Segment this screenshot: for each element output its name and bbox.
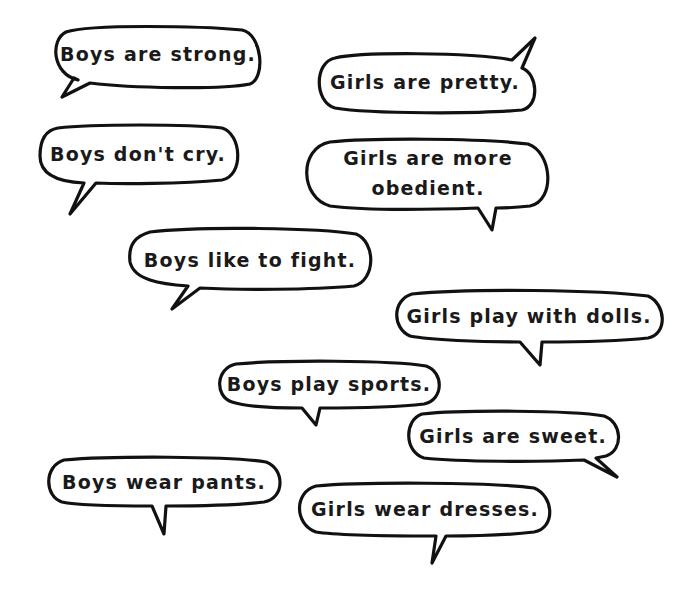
bubble-text: Girls wear dresses.: [302, 497, 548, 522]
